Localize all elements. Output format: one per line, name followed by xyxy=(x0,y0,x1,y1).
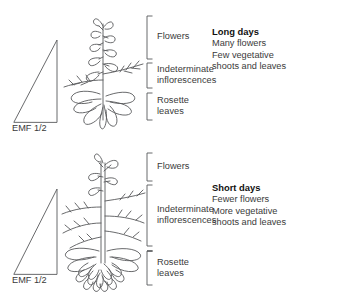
condition-title: Long days xyxy=(212,26,334,38)
plant-architecture-diagram: Flowers Indeterminate inflorescences Ros… xyxy=(0,0,337,295)
bracket-flowers xyxy=(147,16,152,59)
condition-title: Short days xyxy=(212,182,334,194)
panel-short-days: Flowers Indeterminate inflorescences Ros… xyxy=(0,147,337,295)
condition-line: Few vegetative shoots and leaves xyxy=(212,50,334,73)
bracket-inflorescences xyxy=(147,185,152,246)
emf-gradient-label: EMF 1/2 xyxy=(12,275,47,286)
bracket-label-rosette-leaves: Rosette leaves xyxy=(157,257,189,280)
bracket-rosette xyxy=(147,251,152,285)
panel-long-days: Flowers Indeterminate inflorescences Ros… xyxy=(0,0,337,148)
bracket-inflorescences xyxy=(147,63,152,88)
bracket-label-flowers: Flowers xyxy=(157,31,190,42)
bracket-label-indeterminate-inflorescences: Indeterminate inflorescences xyxy=(157,204,216,227)
condition-line: Fewer flowers xyxy=(212,194,334,206)
condition-block-short-days: Short days Fewer flowers More vegetative… xyxy=(212,182,334,229)
condition-line: Many flowers xyxy=(212,38,334,50)
bracket-flowers xyxy=(147,153,152,181)
condition-block-long-days: Long days Many flowers Few vegetative sh… xyxy=(212,26,334,73)
bracket-label-indeterminate-inflorescences: Indeterminate inflorescences xyxy=(157,64,216,87)
bracket-label-rosette-leaves: Rosette leaves xyxy=(157,95,189,118)
bracket-rosette xyxy=(147,93,152,120)
emf-gradient-label: EMF 1/2 xyxy=(12,123,47,134)
bracket-label-flowers: Flowers xyxy=(157,161,190,172)
condition-line: More vegetative shoots and leaves xyxy=(212,206,334,229)
